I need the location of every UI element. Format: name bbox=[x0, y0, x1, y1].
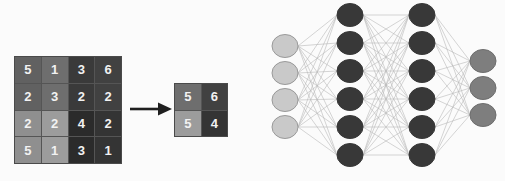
network-node-hidden-layer-1 bbox=[337, 144, 363, 167]
network-node-input-layer bbox=[272, 116, 298, 139]
network-node-hidden-layer-1 bbox=[337, 4, 363, 27]
network-connections bbox=[298, 15, 470, 155]
matrix-cell: 4 bbox=[202, 111, 228, 137]
matrix-cell: 5 bbox=[175, 84, 201, 110]
input-feature-map-grid: 5136232222425131 bbox=[14, 56, 122, 164]
matrix-cell: 5 bbox=[175, 111, 201, 137]
matrix-cell: 2 bbox=[95, 84, 121, 110]
pooled-feature-map-grid: 5654 bbox=[174, 83, 228, 137]
matrix-cell: 6 bbox=[95, 57, 121, 83]
network-connection bbox=[298, 127, 337, 155]
matrix-cell: 2 bbox=[69, 84, 95, 110]
network-node-hidden-layer-1 bbox=[337, 88, 363, 111]
network-connection bbox=[435, 71, 470, 88]
network-connection bbox=[435, 99, 470, 115]
network-node-hidden-layer-2 bbox=[409, 4, 435, 27]
network-node-hidden-layer-2 bbox=[409, 144, 435, 167]
network-connection bbox=[435, 43, 470, 88]
network-node-output-layer bbox=[470, 104, 496, 127]
matrix-cell: 1 bbox=[42, 57, 68, 83]
network-connection bbox=[298, 15, 337, 46]
network-node-input-layer bbox=[272, 89, 298, 112]
fully-connected-network bbox=[250, 0, 505, 181]
network-node-input-layer bbox=[272, 62, 298, 85]
matrix-cell: 2 bbox=[15, 84, 41, 110]
network-connection bbox=[298, 73, 337, 99]
matrix-cell: 2 bbox=[95, 111, 121, 137]
transform-arrow bbox=[130, 100, 172, 118]
network-connection bbox=[435, 61, 470, 71]
matrix-cell: 3 bbox=[69, 137, 95, 163]
network-node-hidden-layer-2 bbox=[409, 116, 435, 139]
figure-canvas: 5136232222425131 5654 bbox=[0, 0, 505, 181]
network-connection bbox=[435, 43, 470, 61]
matrix-cell: 5 bbox=[15, 57, 41, 83]
matrix-cell: 1 bbox=[42, 137, 68, 163]
matrix-cell: 2 bbox=[15, 111, 41, 137]
network-node-output-layer bbox=[470, 50, 496, 73]
network-node-hidden-layer-2 bbox=[409, 60, 435, 83]
network-connection bbox=[298, 15, 337, 73]
matrix-cell: 3 bbox=[69, 57, 95, 83]
network-node-hidden-layer-1 bbox=[337, 116, 363, 139]
matrix-cell: 3 bbox=[42, 84, 68, 110]
network-connection bbox=[435, 15, 470, 115]
matrix-cell: 2 bbox=[42, 111, 68, 137]
network-node-hidden-layer-2 bbox=[409, 88, 435, 111]
matrix-cell: 1 bbox=[95, 137, 121, 163]
matrix-cell: 4 bbox=[69, 111, 95, 137]
matrix-cell: 5 bbox=[15, 137, 41, 163]
arrow-glyph bbox=[130, 103, 172, 116]
network-node-input-layer bbox=[272, 35, 298, 58]
network-connection bbox=[298, 100, 337, 155]
network-node-hidden-layer-1 bbox=[337, 60, 363, 83]
matrix-cell: 6 bbox=[202, 84, 228, 110]
network-connection bbox=[435, 15, 470, 88]
network-node-hidden-layer-2 bbox=[409, 32, 435, 55]
network-node-hidden-layer-1 bbox=[337, 32, 363, 55]
network-node-output-layer bbox=[470, 77, 496, 100]
